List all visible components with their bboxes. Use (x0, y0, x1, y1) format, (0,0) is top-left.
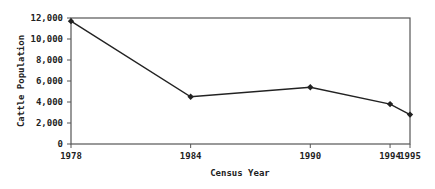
plot-frame (71, 18, 410, 144)
y-tick-label: 0 (58, 139, 63, 149)
x-axis: 19781984199019941995 (60, 144, 421, 161)
x-tick-label: 1994 (379, 151, 401, 161)
y-tick-label: 10,000 (30, 34, 63, 44)
x-axis-title: Census Year (210, 168, 270, 178)
data-point (407, 111, 413, 117)
data-series (68, 18, 413, 118)
y-tick-label: 12,000 (30, 13, 63, 23)
cattle-population-chart: 02,0004,0006,0008,00010,00012,000 197819… (0, 0, 435, 189)
y-tick-label: 6,000 (36, 76, 63, 86)
y-tick-label: 2,000 (36, 118, 63, 128)
x-tick-label: 1990 (299, 151, 321, 161)
y-tick-label: 8,000 (36, 55, 63, 65)
data-point (307, 84, 313, 90)
x-tick-label: 1995 (399, 151, 421, 161)
y-axis: 02,0004,0006,0008,00010,00012,000 (30, 13, 71, 149)
x-tick-label: 1984 (180, 151, 202, 161)
data-point (387, 101, 393, 107)
series-line (71, 21, 410, 114)
y-axis-title: Cattle Population (16, 35, 26, 127)
x-tick-label: 1978 (60, 151, 82, 161)
y-tick-label: 4,000 (36, 97, 63, 107)
